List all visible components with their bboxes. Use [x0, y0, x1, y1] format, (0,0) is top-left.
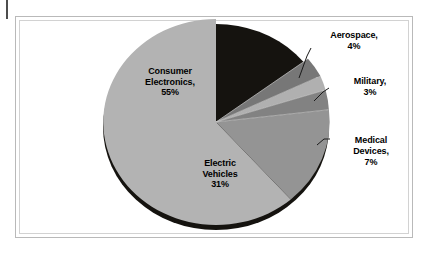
slice-label-aerospace: Aerospace, 4%: [312, 30, 396, 52]
slice-label-medical-devices: Medical Devices, 7%: [330, 135, 412, 168]
slice-label-electric-vehicles: Electric Vehicles 31%: [176, 158, 264, 190]
screenshot-canvas: Consumer Electronics, 55% Electric Vehic…: [0, 0, 429, 257]
slice-label-military: Military, 3%: [330, 76, 410, 98]
slice-label-consumer-electronics: Consumer Electronics, 55%: [122, 66, 218, 98]
pie-chart: Consumer Electronics, 55% Electric Vehic…: [0, 0, 429, 257]
